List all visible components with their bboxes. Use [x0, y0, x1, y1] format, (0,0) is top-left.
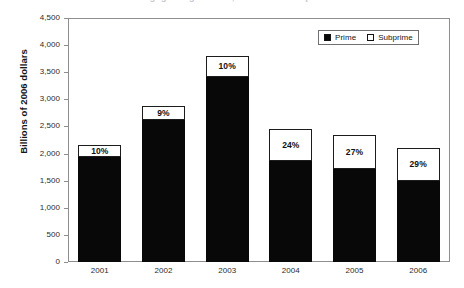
- bar-series-layer: 10%9%10%24%27%29%: [68, 18, 450, 262]
- filled-square-icon: [324, 34, 331, 41]
- chart-figure: Mortgage Originations, Prime and Subprim…: [0, 0, 464, 288]
- chart-legend: Prime Subprime: [318, 30, 419, 45]
- y-axis-tick-label: 500: [16, 230, 60, 239]
- legend-item-prime: Prime: [324, 33, 356, 42]
- y-axis-tick-label: 2,000: [16, 149, 60, 158]
- hollow-square-icon: [367, 34, 374, 41]
- bar-segment-prime[interactable]: [142, 120, 185, 262]
- legend-label-prime: Prime: [335, 33, 356, 42]
- y-axis-tick-label: 2,500: [16, 121, 60, 130]
- bar-segment-subprime[interactable]: 24%: [269, 129, 312, 161]
- bar-segment-prime[interactable]: [206, 77, 249, 262]
- y-axis-tick-label: 0: [16, 257, 60, 266]
- bar-segment-subprime[interactable]: 9%: [142, 106, 185, 120]
- x-axis-tick-label: 2005: [325, 266, 385, 275]
- x-axis-tick-label: 2006: [388, 266, 448, 275]
- y-axis-tick-label: 1,500: [16, 176, 60, 185]
- bar-data-label: 27%: [346, 148, 363, 157]
- y-axis-tick-mark: [64, 262, 68, 263]
- bar-segment-prime[interactable]: [397, 181, 440, 262]
- bar-segment-subprime[interactable]: 10%: [206, 56, 249, 77]
- bar-segment-prime[interactable]: [333, 169, 376, 262]
- x-axis-tick-label: 2004: [261, 266, 321, 275]
- y-axis-tick-label: 4,000: [16, 40, 60, 49]
- y-axis-tick-label: 1,000: [16, 203, 60, 212]
- legend-label-subprime: Subprime: [378, 33, 413, 42]
- bar-data-label: 10%: [219, 62, 236, 71]
- x-axis-tick-label: 2002: [134, 266, 194, 275]
- chart-title-clipped: Mortgage Originations, Prime and Subprim…: [60, 0, 400, 7]
- y-axis-tick-label: 4,500: [16, 13, 60, 22]
- bar-segment-subprime[interactable]: 27%: [333, 135, 376, 169]
- y-axis-tick-label: 3,000: [16, 94, 60, 103]
- bar-segment-subprime[interactable]: 10%: [78, 145, 121, 157]
- bar-data-label: 10%: [91, 147, 108, 156]
- chart-title-text: Mortgage Originations, Prime and Subprim…: [60, 0, 400, 2]
- y-axis-tick-label: 3,500: [16, 67, 60, 76]
- bar-segment-prime[interactable]: [78, 157, 121, 262]
- bar-segment-subprime[interactable]: 29%: [397, 148, 440, 181]
- x-axis-tick-label: 2001: [70, 266, 130, 275]
- x-axis-tick-label: 2003: [197, 266, 257, 275]
- bar-segment-prime[interactable]: [269, 161, 312, 262]
- legend-item-subprime: Subprime: [367, 33, 413, 42]
- bar-data-label: 29%: [410, 160, 427, 169]
- bar-data-label: 9%: [157, 109, 170, 118]
- bar-data-label: 24%: [282, 141, 299, 150]
